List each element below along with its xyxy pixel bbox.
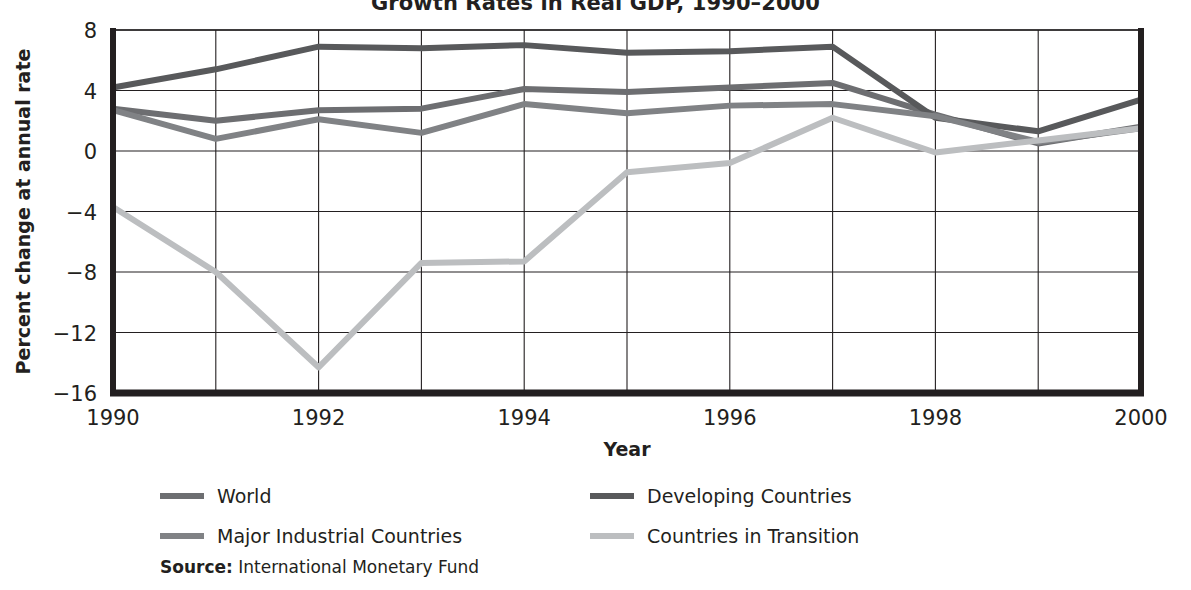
y-axis-tick-label: −4 <box>66 201 97 225</box>
legend-label: Major Industrial Countries <box>217 525 462 547</box>
x-axis-tick-label: 1994 <box>497 406 550 430</box>
y-axis-tick-label: 8 <box>84 19 97 43</box>
x-axis-tick-label: 1998 <box>909 406 962 430</box>
legend-color-swatch <box>160 533 204 539</box>
chart-legend: WorldDeveloping CountriesMajor Industria… <box>160 476 920 556</box>
source-value: International Monetary Fund <box>233 557 479 577</box>
legend-label: Developing Countries <box>647 485 852 507</box>
y-axis-tick-label: 4 <box>84 80 97 104</box>
y-axis-title: Percent change at annual rate <box>12 49 34 375</box>
legend-row: WorldDeveloping Countries <box>160 476 920 516</box>
legend-label: World <box>217 485 271 507</box>
y-axis-tick-label: −8 <box>66 261 97 285</box>
line-chart-plot: 840−4−8−12−16199019921994199619982000Yea… <box>0 0 1191 460</box>
x-axis-tick-label: 1996 <box>703 406 756 430</box>
y-axis-tick-label: 0 <box>84 140 97 164</box>
x-axis-tick-label: 1990 <box>86 406 139 430</box>
source-note: Source: International Monetary Fund <box>160 557 479 577</box>
legend-color-swatch <box>160 493 204 499</box>
x-axis-tick-label: 1992 <box>292 406 345 430</box>
x-axis-tick-label: 2000 <box>1114 406 1167 430</box>
y-axis-tick-label: −16 <box>53 382 97 406</box>
chart-figure: Growth Rates in Real GDP, 1990–2000 840−… <box>0 0 1191 590</box>
legend-item: Major Industrial Countries <box>160 525 590 547</box>
legend-label: Countries in Transition <box>647 525 859 547</box>
legend-item: World <box>160 485 590 507</box>
legend-row: Major Industrial CountriesCountries in T… <box>160 516 920 556</box>
source-label: Source: <box>160 557 233 577</box>
legend-item: Developing Countries <box>590 485 852 507</box>
legend-color-swatch <box>590 493 634 499</box>
x-axis-title: Year <box>602 438 651 460</box>
y-axis-tick-label: −12 <box>53 322 97 346</box>
legend-item: Countries in Transition <box>590 525 859 547</box>
legend-color-swatch <box>590 533 634 539</box>
